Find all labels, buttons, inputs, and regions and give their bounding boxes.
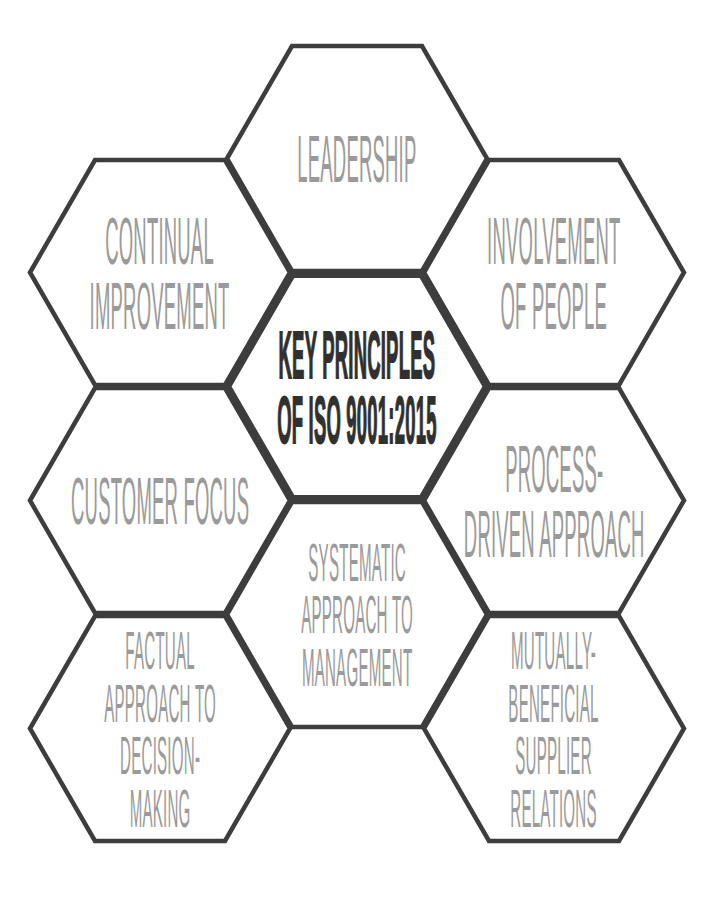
hexagon-label: SYSTEMATIC APPROACH TO MANAGEMENT	[301, 536, 413, 694]
hexagon-label: PROCESS- DRIVEN APPROACH	[464, 436, 645, 565]
hexagon-label: CONTINUAL IMPROVEMENT	[90, 208, 230, 337]
hexagon-factual-approach: FACTUAL APPROACH TO DECISION- MAKING	[30, 616, 290, 841]
hexagon-label: LEADERSHIP	[297, 126, 416, 191]
hexagon-label: INVOLVEMENT OF PEOPLE	[487, 208, 620, 337]
hexagon-label: MUTUALLY- BENEFICIAL SUPPLIER RELATIONS	[509, 624, 599, 834]
hexagon-mutually-beneficial-supplier-relations: MUTUALLY- BENEFICIAL SUPPLIER RELATIONS	[424, 616, 684, 841]
hexagon-label: CUSTOMER FOCUS	[71, 468, 249, 533]
diagram-center-title: KEY PRINCIPLES OF ISO 9001:2015	[277, 322, 437, 451]
hexagon-label: FACTUAL APPROACH TO DECISION- MAKING	[104, 624, 216, 834]
iso-principles-honeycomb-diagram: LEADERSHIP CONTINUAL IMPROVEMENT INVOLVE…	[0, 0, 721, 899]
